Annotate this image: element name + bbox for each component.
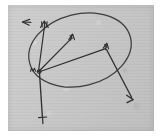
label-text-a: A <box>22 12 28 21</box>
label-text-m: M <box>29 67 36 76</box>
diagram-canvas: A W Y S M C T <box>8 5 154 131</box>
ellipse <box>21 5 139 98</box>
label-text-w: W <box>42 11 50 20</box>
label-text-s: S <box>104 34 108 43</box>
arrowhead-c <box>127 95 134 102</box>
label-text-y: Y <box>69 25 75 34</box>
marker-y <box>69 34 75 40</box>
label-text-t: T <box>40 122 45 131</box>
scanned-figure: A W Y S M C T <box>0 0 165 138</box>
marker-w <box>41 21 49 29</box>
label-text-c: C <box>134 97 139 106</box>
